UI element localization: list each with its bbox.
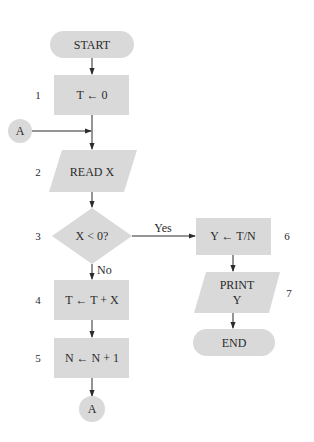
output-step-7: PRINT Y 7 [194,272,292,313]
step-6-number: 6 [284,230,290,242]
input-step-2: READ X 2 [35,150,137,192]
yes-label: Yes [154,221,172,235]
step-7-label-line1: PRINT [220,278,255,292]
step-1-number: 1 [35,89,41,101]
step-3-label: X < 0? [76,229,109,243]
step-2-label: READ X [70,165,115,179]
process-step-6: Y ← T/N 6 [196,218,290,255]
connector-a-exit: A [79,396,105,422]
step-6-label: Y ← T/N [210,229,256,243]
no-label: No [97,263,112,277]
step-3-number: 3 [35,230,41,242]
step-7-label-line2: Y [233,293,242,307]
end-label: END [222,336,247,350]
start-terminal: START [50,31,134,58]
end-terminal: END [193,329,275,356]
step-5-number: 5 [35,352,41,364]
step-1-label: T ← 0 [76,88,107,102]
step-4-number: 4 [35,294,41,306]
process-step-1: T ← 0 1 [35,75,129,115]
step-7-number: 7 [286,287,292,299]
flowchart: START T ← 0 1 A READ X 2 X < 0? 3 Yes No… [0,0,314,442]
connector-a-entry-label: A [16,124,25,138]
step-5-label: N ← N + 1 [65,351,119,365]
process-step-4: T ← T + X 4 [35,280,129,320]
step-4-label: T ← T + X [65,293,119,307]
connector-a-entry: A [8,119,32,143]
step-2-number: 2 [35,166,41,178]
decision-step-3: X < 0? 3 [35,208,132,264]
process-step-5: N ← N + 1 5 [35,338,129,378]
connector-a-exit-label: A [88,402,97,416]
start-label: START [74,38,111,52]
